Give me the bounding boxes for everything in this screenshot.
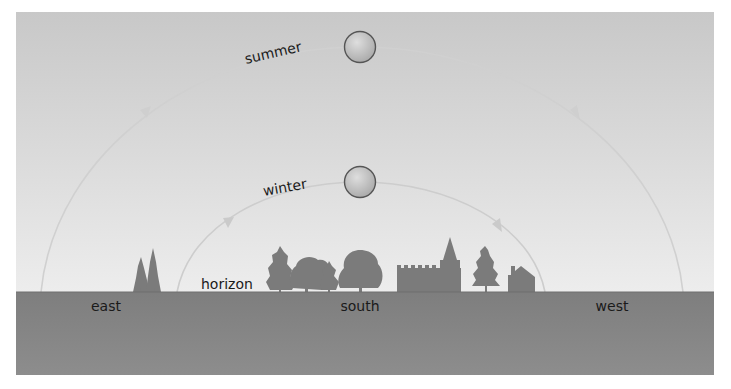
sun-path-diagram: summer winter [0, 0, 731, 389]
west-label: west [596, 298, 629, 314]
horizon-label: horizon [201, 276, 253, 292]
winter-sun-icon [345, 167, 376, 198]
south-label: south [340, 298, 379, 314]
summer-sun-icon [345, 32, 376, 63]
east-label: east [91, 298, 121, 314]
